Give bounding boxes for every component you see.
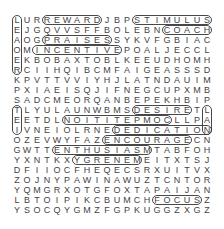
grid-cell[interactable]: S xyxy=(192,195,202,205)
grid-cell[interactable]: N xyxy=(72,45,82,55)
grid-cell[interactable]: T xyxy=(172,125,182,135)
grid-cell[interactable]: X xyxy=(62,185,72,195)
grid-cell[interactable]: K xyxy=(122,55,132,65)
grid-cell[interactable]: S xyxy=(72,25,82,35)
grid-cell[interactable]: L xyxy=(122,75,132,85)
grid-cell[interactable]: K xyxy=(162,95,172,105)
grid-cell[interactable]: O xyxy=(92,55,102,65)
grid-cell[interactable]: H xyxy=(102,75,112,85)
grid-cell[interactable]: W xyxy=(22,145,32,155)
grid-cell[interactable]: O xyxy=(152,115,162,125)
grid-cell[interactable]: H xyxy=(202,25,212,35)
grid-cell[interactable]: M xyxy=(22,45,32,55)
grid-cell[interactable]: G xyxy=(142,85,152,95)
grid-cell[interactable]: N xyxy=(32,155,42,165)
grid-cell[interactable]: J xyxy=(162,45,172,55)
grid-cell[interactable]: I xyxy=(52,195,62,205)
grid-cell[interactable]: E xyxy=(102,135,112,145)
grid-cell[interactable]: C xyxy=(122,165,132,175)
grid-cell[interactable]: I xyxy=(172,185,182,195)
grid-cell[interactable]: N xyxy=(202,185,212,195)
grid-cell[interactable]: O xyxy=(32,205,42,215)
grid-cell[interactable]: R xyxy=(82,125,92,135)
grid-cell[interactable]: A xyxy=(142,185,152,195)
grid-cell[interactable]: G xyxy=(162,35,172,45)
grid-cell[interactable]: S xyxy=(132,145,142,155)
grid-cell[interactable]: U xyxy=(72,105,82,115)
grid-cell[interactable]: O xyxy=(62,125,72,135)
grid-cell[interactable]: P xyxy=(122,205,132,215)
grid-cell[interactable]: N xyxy=(202,125,212,135)
grid-cell[interactable]: Q xyxy=(62,65,72,75)
grid-cell[interactable]: O xyxy=(12,135,22,145)
grid-cell[interactable]: O xyxy=(72,185,82,195)
grid-cell[interactable]: O xyxy=(112,25,122,35)
grid-cell[interactable]: G xyxy=(172,135,182,145)
grid-cell[interactable]: B xyxy=(52,55,62,65)
grid-cell[interactable]: E xyxy=(102,125,112,135)
grid-cell[interactable]: V xyxy=(192,165,202,175)
grid-cell[interactable]: O xyxy=(172,25,182,35)
grid-cell[interactable]: P xyxy=(22,75,32,85)
grid-cell[interactable]: R xyxy=(152,135,162,145)
grid-cell[interactable]: M xyxy=(102,65,112,75)
grid-cell[interactable]: B xyxy=(122,95,132,105)
grid-cell[interactable]: O xyxy=(132,135,142,145)
grid-cell[interactable]: Z xyxy=(92,135,102,145)
grid-cell[interactable]: X xyxy=(152,165,162,175)
grid-cell[interactable]: R xyxy=(52,35,62,45)
grid-cell[interactable]: J xyxy=(182,185,192,195)
grid-cell[interactable]: D xyxy=(202,65,212,75)
grid-cell[interactable]: W xyxy=(122,175,132,185)
grid-cell[interactable]: C xyxy=(92,65,102,75)
grid-cell[interactable]: C xyxy=(162,175,172,185)
grid-cell[interactable]: E xyxy=(12,115,22,125)
grid-cell[interactable]: C xyxy=(52,45,62,55)
grid-cell[interactable]: W xyxy=(52,135,62,145)
grid-cell[interactable]: I xyxy=(92,45,102,55)
grid-cell[interactable]: I xyxy=(192,95,202,105)
grid-cell[interactable]: A xyxy=(22,95,32,105)
grid-cell[interactable]: C xyxy=(62,165,72,175)
grid-cell[interactable]: E xyxy=(152,65,162,75)
grid-cell[interactable]: O xyxy=(132,45,142,55)
grid-cell[interactable]: A xyxy=(62,105,72,115)
grid-cell[interactable]: A xyxy=(162,135,172,145)
grid-cell[interactable]: K xyxy=(12,75,22,85)
grid-cell[interactable]: I xyxy=(42,165,52,175)
grid-cell[interactable]: C xyxy=(152,125,162,135)
grid-cell[interactable]: L xyxy=(182,115,192,125)
grid-cell[interactable]: B xyxy=(102,25,112,35)
grid-cell[interactable]: I xyxy=(192,75,202,85)
grid-cell[interactable]: B xyxy=(182,95,192,105)
grid-cell[interactable]: V xyxy=(42,135,52,145)
grid-cell[interactable]: B xyxy=(102,105,112,115)
grid-cell[interactable]: F xyxy=(72,165,82,175)
grid-cell[interactable]: F xyxy=(112,85,122,95)
grid-cell[interactable]: Z xyxy=(142,175,152,185)
grid-cell[interactable]: I xyxy=(142,125,152,135)
grid-cell[interactable]: E xyxy=(52,15,62,25)
grid-cell[interactable]: L xyxy=(52,115,62,125)
grid-cell[interactable]: L xyxy=(22,105,32,115)
grid-cell[interactable]: Y xyxy=(32,105,42,115)
grid-cell[interactable]: S xyxy=(152,105,162,115)
grid-cell[interactable]: B xyxy=(202,85,212,95)
grid-cell[interactable]: C xyxy=(172,195,182,205)
grid-cell[interactable]: U xyxy=(172,15,182,25)
grid-cell[interactable]: G xyxy=(92,185,102,195)
grid-cell[interactable]: E xyxy=(132,25,142,35)
grid-cell[interactable]: E xyxy=(92,165,102,175)
grid-cell[interactable]: B xyxy=(112,15,122,25)
grid-cell[interactable]: T xyxy=(32,115,42,125)
grid-cell[interactable]: Q xyxy=(22,185,32,195)
grid-cell[interactable]: M xyxy=(82,205,92,215)
grid-cell[interactable]: H xyxy=(82,145,92,155)
grid-cell[interactable]: Z xyxy=(202,205,212,215)
grid-cell[interactable]: S xyxy=(182,65,192,75)
grid-cell[interactable]: O xyxy=(112,185,122,195)
grid-cell[interactable]: O xyxy=(192,145,202,155)
grid-cell[interactable]: H xyxy=(172,55,182,65)
grid-cell[interactable]: E xyxy=(132,55,142,65)
grid-cell[interactable]: K xyxy=(132,35,142,45)
